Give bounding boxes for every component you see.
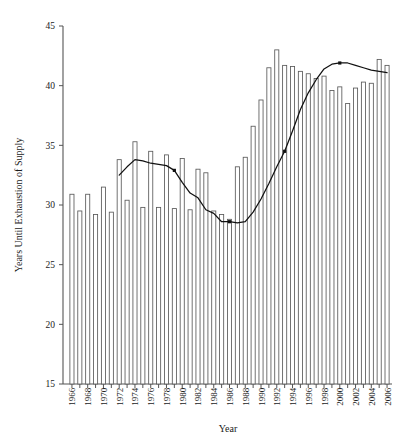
x-tick-label: 1992 [272, 388, 282, 406]
bar [78, 211, 82, 384]
bar [117, 160, 121, 384]
trend-line-marker [338, 61, 341, 64]
bar [164, 155, 168, 384]
bar [125, 200, 129, 384]
x-tick-label: 1968 [83, 387, 93, 406]
bar [369, 83, 373, 384]
bar [86, 194, 90, 384]
x-tick-label: 1978 [162, 387, 172, 406]
x-tick-label: 1966 [67, 387, 77, 406]
y-tick-label: 45 [46, 21, 56, 31]
bar [204, 173, 208, 384]
bar [235, 167, 239, 384]
bar [259, 100, 263, 384]
bar [267, 68, 271, 384]
y-tick-label: 25 [46, 260, 56, 270]
bar [157, 207, 161, 384]
x-tick-label: 1972 [115, 388, 125, 406]
x-tick-label: 1986 [225, 387, 235, 406]
y-axis-title: Years Until Exhaustion of Supply [13, 138, 24, 273]
bar [133, 142, 137, 384]
bar [338, 87, 342, 384]
bar [220, 215, 224, 384]
bar [275, 50, 279, 384]
bar [306, 74, 310, 384]
bar [70, 194, 74, 384]
bar [322, 76, 326, 384]
bar [172, 209, 176, 384]
bar [196, 169, 200, 384]
bar [314, 79, 318, 384]
bar [283, 65, 287, 384]
bar [330, 90, 334, 384]
bar [346, 104, 350, 384]
y-tick-label: 40 [46, 81, 56, 91]
x-tick-label: 1998 [320, 387, 330, 406]
bar [141, 207, 145, 384]
x-tick-label: 1974 [130, 387, 140, 406]
bar [243, 157, 247, 384]
bar [94, 215, 98, 384]
bar [361, 82, 365, 384]
bar-chart-canvas: 15202530354045 1966196819701972197419761… [0, 0, 418, 441]
x-axis-ticks: 1966196819701972197419761978198019821984… [67, 384, 392, 406]
bar [180, 158, 184, 384]
x-tick-label: 2004 [367, 387, 377, 406]
bar [251, 126, 255, 384]
bar [227, 219, 231, 384]
bar [377, 59, 381, 384]
x-tick-label: 1996 [304, 387, 314, 406]
y-tick-label: 20 [46, 320, 56, 330]
bar [101, 187, 105, 384]
bar [188, 210, 192, 384]
bar [290, 67, 294, 384]
chart-figure: 15202530354045 1966196819701972197419761… [0, 0, 418, 441]
x-tick-label: 2000 [335, 387, 345, 406]
y-tick-label: 35 [46, 141, 56, 151]
trend-line-marker [283, 150, 286, 153]
bar [212, 211, 216, 384]
x-tick-label: 2002 [351, 388, 361, 406]
trend-line-marker [173, 169, 176, 172]
x-tick-label: 1984 [209, 387, 219, 406]
bar-series [70, 50, 389, 384]
trend-line-marker [228, 220, 231, 223]
y-tick-label: 15 [46, 379, 56, 389]
bar [354, 88, 358, 384]
x-tick-label: 1982 [193, 388, 203, 406]
x-tick-label: 2006 [383, 387, 393, 406]
x-tick-label: 1976 [146, 387, 156, 406]
x-tick-label: 1990 [257, 387, 267, 406]
bar [298, 71, 302, 384]
y-axis-ticks: 15202530354045 [46, 21, 64, 389]
bar [109, 212, 113, 384]
y-tick-label: 30 [46, 200, 56, 210]
bar [149, 151, 153, 384]
x-tick-label: 1988 [241, 387, 251, 406]
x-tick-label: 1970 [99, 387, 109, 406]
x-tick-label: 1980 [178, 387, 188, 406]
x-axis-title: Year [219, 423, 238, 434]
bar [385, 65, 389, 384]
x-tick-label: 1994 [288, 387, 298, 406]
